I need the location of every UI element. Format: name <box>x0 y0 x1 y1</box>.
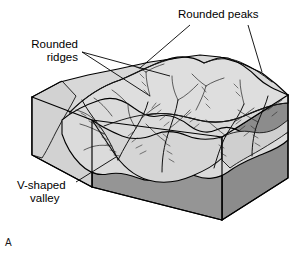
figure-container: Rounded peaks Rounded ridges V-shaped va… <box>0 0 300 253</box>
label-rounded-ridges-line2: ridges <box>47 51 79 63</box>
label-rounded-peaks: Rounded peaks <box>178 8 259 20</box>
block-diagram-rounded-topography: Rounded peaks Rounded ridges V-shaped va… <box>0 0 300 253</box>
label-v-shaped-valley-line1: V-shaped <box>17 179 66 191</box>
figure-letter: A <box>5 237 12 248</box>
label-v-shaped-valley-line2: valley <box>30 192 60 204</box>
label-rounded-ridges-line1: Rounded <box>31 38 78 50</box>
